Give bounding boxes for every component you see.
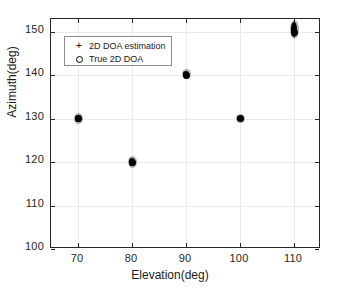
y-axis-tick-label: 130 (4, 110, 44, 122)
x-axis-tick-label: 100 (219, 252, 259, 264)
y-axis-tick (315, 75, 319, 76)
y-axis-tick (315, 162, 319, 163)
gridline-horizontal (51, 32, 319, 33)
gridline-vertical (294, 19, 295, 247)
x-axis-tick (132, 19, 133, 23)
x-axis-tick-label: 110 (273, 252, 313, 264)
true-doa-point (291, 29, 298, 36)
x-axis-tick (240, 19, 241, 23)
legend-label-estimation: 2D DOA estimation (89, 39, 166, 53)
legend-entry-true: True 2D DOA (65, 52, 171, 66)
gridline-vertical (240, 19, 241, 247)
x-axis-tick (294, 243, 295, 247)
gridline-horizontal (51, 206, 319, 207)
true-doa-point (183, 72, 190, 79)
x-axis-tick-label: 80 (111, 252, 151, 264)
true-doa-point (237, 115, 244, 122)
gridline-vertical (186, 19, 187, 247)
legend: + 2D DOA estimation True 2D DOA (64, 36, 172, 66)
y-axis-tick-label: 100 (4, 240, 44, 252)
y-axis-title: Azimuth(deg) (5, 22, 19, 142)
y-axis-tick-label: 140 (4, 66, 44, 78)
y-axis-tick (51, 119, 55, 120)
y-axis-tick (315, 32, 319, 33)
gridline-horizontal (51, 162, 319, 163)
y-axis-tick (51, 206, 55, 207)
x-axis-title: Elevation(deg) (0, 268, 340, 282)
x-axis-tick (240, 243, 241, 247)
y-axis-tick (315, 206, 319, 207)
legend-entry-estimation: + 2D DOA estimation (65, 39, 171, 53)
x-axis-tick (78, 19, 79, 23)
x-axis-tick (186, 243, 187, 247)
y-axis-tick-label: 150 (4, 23, 44, 35)
y-axis-tick (51, 32, 55, 33)
y-axis-tick (51, 75, 55, 76)
x-axis-tick-label: 70 (57, 252, 97, 264)
x-axis-tick (186, 19, 187, 23)
y-axis-tick-label: 110 (4, 197, 44, 209)
legend-label-true: True 2D DOA (89, 52, 143, 66)
y-axis-tick (315, 119, 319, 120)
x-axis-tick-label: 90 (165, 252, 205, 264)
y-axis-tick (51, 162, 55, 163)
scatter-plot-figure: Azimuth(deg) Elevation(deg) + 2D DOA est… (0, 0, 340, 296)
true-doa-point (75, 115, 82, 122)
gridline-horizontal (51, 119, 319, 120)
caption-fragment (0, 286, 340, 296)
circle-marker-icon (73, 52, 85, 66)
true-doa-point (129, 159, 136, 166)
plus-marker-icon: + (73, 39, 85, 53)
y-axis-tick (51, 249, 55, 250)
x-axis-tick (78, 243, 79, 247)
y-axis-tick (315, 249, 319, 250)
y-axis-tick-label: 120 (4, 153, 44, 165)
x-axis-tick (132, 243, 133, 247)
